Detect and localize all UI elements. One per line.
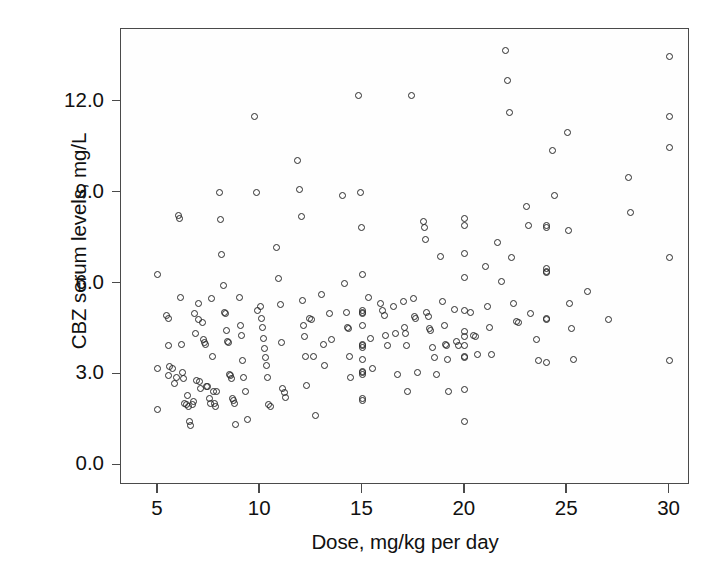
x-tick-label: 25 <box>531 496 601 520</box>
data-point <box>341 280 348 287</box>
data-point <box>433 371 440 378</box>
x-tick-mark <box>156 484 157 493</box>
data-point <box>202 341 209 348</box>
data-point <box>392 330 399 337</box>
data-point <box>218 251 225 258</box>
data-point <box>298 213 305 220</box>
data-point <box>381 312 388 319</box>
data-point <box>242 388 249 395</box>
data-point <box>359 356 366 363</box>
data-point <box>422 236 429 243</box>
data-point <box>176 215 183 222</box>
data-point <box>318 291 325 298</box>
x-tick-mark <box>565 484 566 493</box>
data-point <box>165 342 172 349</box>
data-point <box>187 422 194 429</box>
y-tick-label: 3.0 <box>14 360 104 384</box>
data-point <box>240 374 247 381</box>
data-point <box>328 336 335 343</box>
data-point <box>273 244 280 251</box>
data-point <box>666 144 673 151</box>
data-point <box>192 330 199 337</box>
data-point <box>666 254 673 261</box>
data-point <box>367 335 374 342</box>
data-point <box>190 398 197 405</box>
y-tick-label: 9.0 <box>14 179 104 203</box>
data-point <box>228 375 235 382</box>
data-point <box>326 310 333 317</box>
data-point <box>312 412 319 419</box>
data-point <box>451 306 458 313</box>
data-point <box>216 189 223 196</box>
data-point <box>258 315 265 322</box>
data-point <box>222 310 229 317</box>
data-point <box>359 322 366 329</box>
data-point <box>199 319 206 326</box>
data-point <box>169 365 176 372</box>
data-point <box>262 354 269 361</box>
data-point <box>308 316 315 323</box>
data-point <box>301 333 308 340</box>
data-point <box>412 315 419 322</box>
data-point <box>510 300 517 307</box>
data-point <box>299 297 306 304</box>
data-point <box>382 332 389 339</box>
data-point <box>565 227 572 234</box>
data-point <box>231 400 238 407</box>
data-point <box>441 322 448 329</box>
data-point <box>357 189 364 196</box>
data-point <box>257 303 264 310</box>
data-point <box>605 316 612 323</box>
y-tick-mark <box>112 282 120 283</box>
plot-area <box>120 28 689 484</box>
data-point <box>267 403 274 410</box>
scatter-plot-figure: CBZ serum levels, mg/L Dose, mg/kg per d… <box>0 0 724 580</box>
x-tick-label: 20 <box>429 496 499 520</box>
data-point <box>472 333 479 340</box>
data-point <box>369 365 376 372</box>
data-point <box>282 394 289 401</box>
data-point <box>421 224 428 231</box>
data-point <box>551 192 558 199</box>
data-point <box>236 294 243 301</box>
data-point <box>403 342 410 349</box>
data-point <box>444 356 451 363</box>
data-point <box>504 77 511 84</box>
data-point <box>488 351 495 358</box>
y-tick-label: 12.0 <box>14 88 104 112</box>
data-point <box>461 342 468 349</box>
data-point <box>180 375 187 382</box>
data-point <box>474 351 481 358</box>
data-point <box>523 203 530 210</box>
data-point <box>208 295 215 302</box>
data-point <box>425 313 432 320</box>
data-point <box>564 129 571 136</box>
data-point <box>365 294 372 301</box>
data-point <box>359 397 366 404</box>
data-point <box>278 339 285 346</box>
data-point <box>238 332 245 339</box>
data-point <box>502 47 509 54</box>
data-point <box>533 336 540 343</box>
data-point <box>439 298 446 305</box>
data-point <box>625 174 632 181</box>
data-point <box>390 303 397 310</box>
data-point <box>263 362 270 369</box>
x-tick-mark <box>463 484 464 493</box>
data-point <box>178 341 185 348</box>
data-point <box>535 357 542 364</box>
data-point <box>566 300 573 307</box>
data-point <box>239 357 246 364</box>
data-point <box>549 147 556 154</box>
data-point <box>377 300 384 307</box>
data-point <box>154 271 161 278</box>
data-point <box>237 322 244 329</box>
y-tick-label: 6.0 <box>14 270 104 294</box>
data-point <box>264 374 271 381</box>
data-point <box>251 113 258 120</box>
data-point <box>302 353 309 360</box>
x-axis-label: Dose, mg/kg per day <box>120 530 690 554</box>
x-tick-mark <box>361 484 362 493</box>
data-point <box>165 315 172 322</box>
x-tick-label: 15 <box>327 496 397 520</box>
